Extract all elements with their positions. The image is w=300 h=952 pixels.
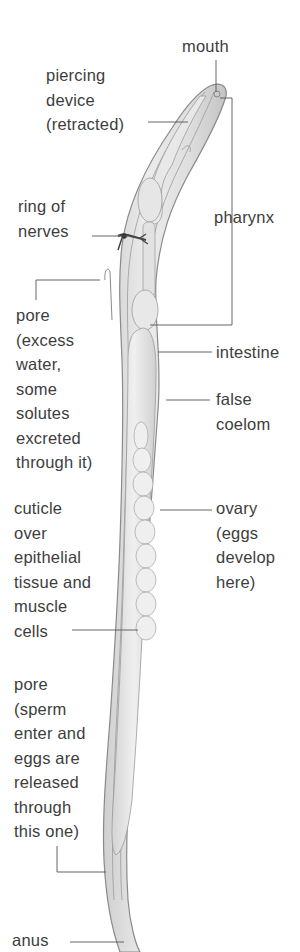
label-false-coelom: false coelom	[216, 387, 270, 436]
label-reproductive-pore: pore (sperm enter and eggs are released …	[14, 672, 86, 844]
label-piercing-device: piercing device (retracted)	[46, 63, 124, 137]
label-ring-of-nerves: ring of nerves	[18, 194, 69, 243]
label-anus: anus	[12, 928, 49, 952]
label-cuticle: cuticle over epithelial tissue and muscl…	[14, 496, 91, 643]
label-ovary: ovary (eggs develop here)	[216, 496, 275, 594]
label-intestine: intestine	[216, 340, 279, 365]
label-mouth: mouth	[182, 34, 229, 59]
label-pharynx: pharynx	[214, 205, 274, 230]
label-excretory-pore: pore (excess water, some solutes excrete…	[16, 303, 93, 475]
